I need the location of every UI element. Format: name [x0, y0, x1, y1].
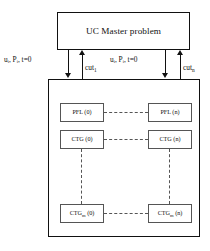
- node-ctgm-0-base: CTG: [70, 209, 82, 216]
- node-pfl-0-label: PFL (0): [72, 109, 91, 115]
- arrow-up-1-line: [82, 55, 83, 79]
- arrow-label-cut-1-subscript: 1: [94, 67, 97, 73]
- dashed-connector-ctgm-row: [104, 213, 148, 214]
- node-ctgm-0-label: CTGm (0): [70, 210, 95, 217]
- arrow-label-input-n: uᵢ, Pᵢ, t=0: [110, 56, 138, 63]
- arrow-down-1-head-icon: [65, 73, 71, 78]
- node-ctg-n-label: CTG (n): [159, 136, 180, 142]
- node-pfl-n-label: PFL (n): [160, 109, 179, 115]
- dashed-connector-ctg-row: [104, 139, 148, 140]
- node-pfl-0: PFL (0): [60, 103, 104, 122]
- arrow-down-1-line: [68, 50, 69, 74]
- node-ctgm-n-subscript: m: [170, 213, 174, 218]
- node-ctg-n: CTG (n): [148, 130, 192, 149]
- arrow-up-n-head-icon: [177, 50, 183, 55]
- uc-master-problem-label: UC Master problem: [86, 26, 161, 36]
- dashed-connector-right-column: [169, 149, 170, 204]
- arrow-label-cut-n-base: cut: [183, 63, 192, 72]
- node-ctgm-n-index: (n): [174, 209, 183, 216]
- node-ctgm-n: CTGm (n): [148, 204, 192, 223]
- arrow-label-cut-n-subscript: n: [192, 67, 195, 73]
- node-ctgm-0-subscript: m: [82, 213, 86, 218]
- node-ctgm-0: CTGm (0): [60, 204, 104, 223]
- uc-master-problem-box: UC Master problem: [57, 12, 190, 50]
- arrow-label-input-1: uᵢ, Pᵢ, t=0: [4, 56, 32, 63]
- node-pfl-n: PFL (n): [148, 103, 192, 122]
- dashed-connector-pfl-row: [104, 112, 148, 113]
- arrow-up-n-line: [180, 55, 181, 79]
- arrow-down-n-line: [165, 50, 166, 74]
- diagram-canvas: UC Master problem uᵢ, Pᵢ, t=0 cut1 uᵢ, P…: [0, 0, 210, 251]
- arrow-label-cut-1-base: cut: [85, 63, 94, 72]
- node-ctg-0: CTG (0): [60, 130, 104, 149]
- node-ctgm-n-base: CTG: [158, 209, 170, 216]
- dashed-connector-left-column: [81, 149, 82, 204]
- node-ctg-0-label: CTG (0): [71, 136, 92, 142]
- arrow-label-cut-1: cut1: [85, 64, 97, 71]
- arrow-up-1-head-icon: [79, 50, 85, 55]
- arrow-down-n-head-icon: [162, 73, 168, 78]
- node-ctgm-0-index: (0): [86, 209, 95, 216]
- arrow-label-cut-n: cutn: [183, 64, 195, 71]
- node-ctgm-n-label: CTGm (n): [158, 210, 183, 217]
